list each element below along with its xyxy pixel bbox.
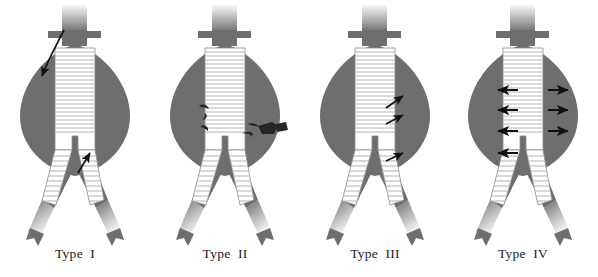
- graft-stent-rings: [204, 52, 246, 132]
- stent-graft-body: [204, 48, 246, 150]
- stent-graft-limb-left: [332, 150, 376, 205]
- infrarenal-neck: [212, 30, 237, 46]
- renal-artery-right: [85, 31, 101, 38]
- stent-graft-limb-left: [32, 150, 76, 205]
- stent-graft-limb-left: [182, 150, 226, 205]
- type-4-illustration: [448, 0, 598, 248]
- panel-type-4: Type IV: [448, 0, 598, 277]
- type-1-illustration: [0, 0, 150, 248]
- infrarenal-neck: [510, 30, 535, 46]
- infrarenal-neck: [362, 30, 387, 46]
- renal-artery-right: [533, 31, 549, 38]
- stent-graft-body: [354, 48, 396, 150]
- renal-artery-right: [385, 31, 401, 38]
- panel-type-2: Type II: [150, 0, 300, 277]
- type-3-illustration: [300, 0, 450, 248]
- stent-graft-limb-right: [374, 150, 418, 205]
- caption-type-3: Type III: [300, 246, 450, 262]
- renal-artery-left: [348, 31, 364, 38]
- stent-graft-limb-right: [74, 150, 118, 205]
- renal-artery-left: [496, 31, 512, 38]
- stent-graft-limb-right: [224, 150, 268, 205]
- panel-type-1: Type I: [0, 0, 150, 277]
- endoleak-figure: Type I: [0, 0, 598, 277]
- graft-stent-rings: [502, 52, 544, 132]
- graft-stent-rings: [54, 52, 96, 132]
- stent-graft-limb-left: [480, 150, 524, 205]
- type-2-illustration: [150, 0, 300, 248]
- stent-graft-limb-right: [522, 150, 566, 205]
- suprarenal-aorta: [362, 4, 387, 32]
- renal-artery-left: [198, 31, 214, 38]
- suprarenal-aorta: [62, 4, 87, 32]
- renal-artery-right: [235, 31, 251, 38]
- stent-graft-body: [54, 48, 96, 150]
- stent-graft-body: [502, 48, 544, 150]
- caption-type-4: Type IV: [448, 246, 598, 262]
- suprarenal-aorta: [212, 4, 237, 32]
- panel-type-3: Type III: [300, 0, 450, 277]
- caption-type-2: Type II: [150, 246, 300, 262]
- caption-type-1: Type I: [0, 246, 150, 262]
- graft-stent-rings: [354, 52, 396, 132]
- suprarenal-aorta: [510, 4, 535, 32]
- infrarenal-neck: [62, 30, 87, 46]
